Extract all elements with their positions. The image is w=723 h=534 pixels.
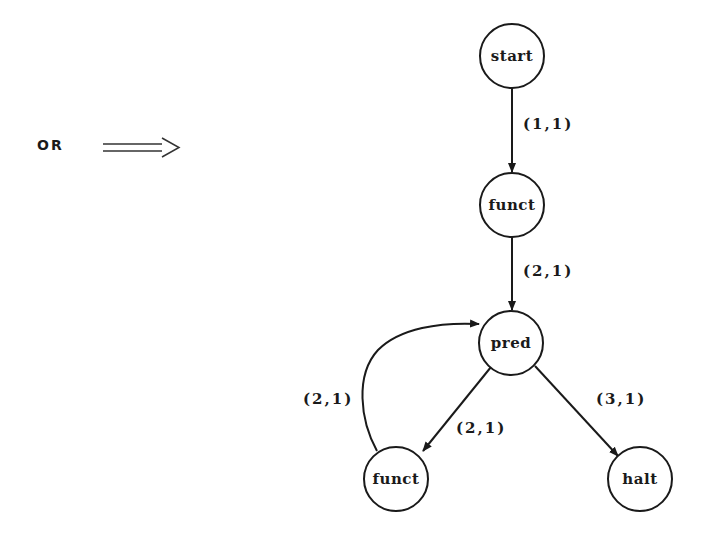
flow-diagram: OR (1,1) (2,1) (2,1) (3,1) (2,1) start f…	[0, 0, 723, 534]
node-label-pred: pred	[491, 334, 531, 352]
node-funct-1: funct	[480, 173, 544, 237]
node-funct-2: funct	[364, 447, 428, 511]
node-label-funct-1: funct	[489, 196, 536, 214]
edge-pred-to-funct	[423, 367, 491, 451]
or-label: OR	[37, 137, 64, 153]
node-label-halt: halt	[622, 470, 657, 488]
edge-label-start-funct: (1,1)	[523, 115, 573, 133]
node-halt: halt	[608, 447, 672, 511]
edge-label-loop: (2,1)	[303, 390, 353, 408]
node-label-funct-2: funct	[373, 470, 420, 488]
node-pred: pred	[479, 311, 543, 375]
edge-label-pred-funct: (2,1)	[456, 419, 506, 437]
double-right-arrow-icon	[103, 138, 179, 157]
node-start: start	[480, 24, 544, 88]
node-label-start: start	[491, 47, 533, 65]
edge-label-pred-halt: (3,1)	[596, 390, 646, 408]
edge-label-funct-pred: (2,1)	[523, 262, 573, 280]
edge-pred-to-halt	[535, 366, 618, 456]
